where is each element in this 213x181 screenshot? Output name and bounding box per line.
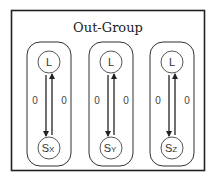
edge-label-down: 0: [94, 95, 100, 106]
node-s-subscript: Z: [172, 145, 177, 154]
edge-label-down: 0: [155, 95, 161, 106]
node-s-subscript: X: [49, 145, 55, 154]
edge-label-up: 0: [123, 95, 129, 106]
edge-label-up: 0: [184, 95, 190, 106]
diagram-title: Out-Group: [73, 20, 143, 35]
node-l-label: L: [108, 56, 114, 68]
group-1: LSX00: [27, 42, 71, 166]
group-2: LSY00: [89, 42, 133, 166]
node-l-label: L: [46, 56, 52, 68]
node-s-main: S: [165, 142, 172, 154]
edge-label-down: 0: [32, 95, 38, 106]
group-3: LSZ00: [150, 42, 194, 166]
node-l-label: L: [169, 56, 175, 68]
node-s-main: S: [42, 142, 49, 154]
out-group-diagram: Out-Group LSX00LSY00LSZ00: [0, 0, 213, 181]
node-s-main: S: [104, 142, 111, 154]
node-s-subscript: Y: [111, 145, 117, 154]
edge-label-up: 0: [61, 95, 67, 106]
